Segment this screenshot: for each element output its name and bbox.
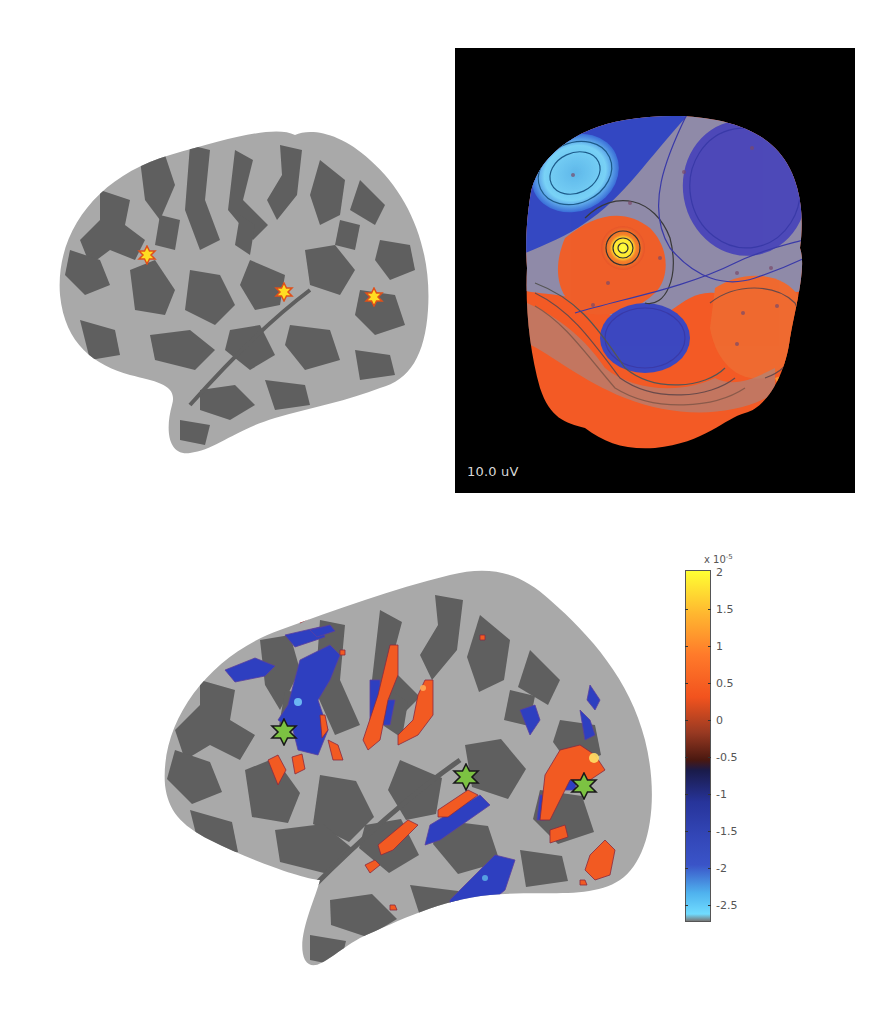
- star-marker-1-icon: [270, 718, 298, 746]
- scale-label: 10.0 uV: [467, 464, 519, 479]
- tick-label: -0.5: [716, 752, 737, 763]
- colorbar-tick: [685, 794, 711, 795]
- tick-label: 1.5: [716, 604, 734, 615]
- colorbar-tick: [685, 646, 711, 647]
- star-marker-2-icon: [452, 763, 480, 791]
- colorbar-tick: [685, 831, 711, 832]
- source-marker-3-icon: [364, 287, 384, 307]
- star-marker-3-icon: [570, 772, 598, 800]
- colorbar-tick: [685, 683, 711, 684]
- tick-label: -2.5: [716, 900, 737, 911]
- tick-label: 2: [716, 567, 723, 578]
- brain-surface-bottom: [160, 560, 660, 980]
- colorbar-tick: [685, 905, 711, 906]
- colorbar-tick: [685, 868, 711, 869]
- colorbar-gradient: [685, 570, 711, 922]
- colorbar: x 10-5 2 1.5 1 0.5 0 -0.5 -1 -1.5 -2 -2.…: [680, 565, 770, 935]
- source-marker-2-icon: [274, 282, 294, 302]
- tick-label: 0.5: [716, 678, 734, 689]
- colorbar-tick: [685, 757, 711, 758]
- source-marker-1-icon: [137, 245, 157, 265]
- colorbar-exponent: x 10-5: [704, 553, 733, 565]
- colorbar-tick: [685, 720, 711, 721]
- scalp-map: [455, 48, 855, 493]
- tick-label: -1: [716, 789, 727, 800]
- colorbar-tick: [685, 609, 711, 610]
- eeg-topography-panel: 10.0 uV: [455, 48, 855, 493]
- inflated-brain-bottom: [160, 560, 660, 980]
- tick-label: -1.5: [716, 826, 737, 837]
- tick-label: 0: [716, 715, 723, 726]
- tick-label: -2: [716, 863, 727, 874]
- tick-label: 1: [716, 641, 723, 652]
